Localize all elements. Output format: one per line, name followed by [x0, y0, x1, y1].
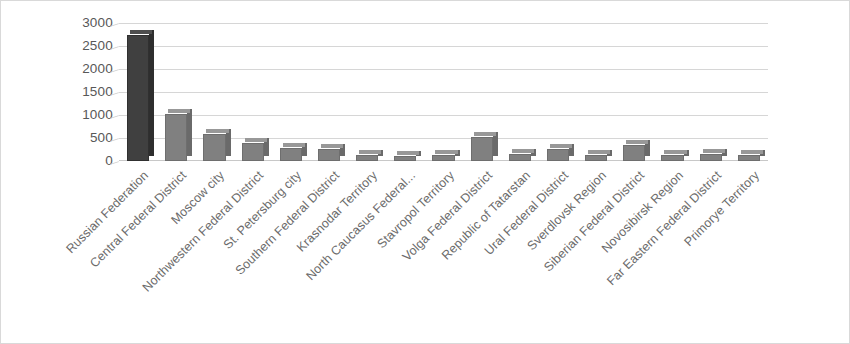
- bar-3d-top: [397, 151, 419, 155]
- bar-3d-top: [474, 132, 496, 136]
- bar[interactable]: [738, 155, 760, 161]
- bar-slot: [432, 23, 454, 161]
- bar-3d-top: [130, 30, 152, 34]
- y-axis: 300025002000150010005000: [1, 1, 113, 344]
- bar-3d-side: [187, 109, 192, 156]
- x-axis-tick-label: Primorye Territory: [470, 169, 762, 344]
- bar-3d-top: [588, 150, 610, 154]
- bar[interactable]: [165, 114, 187, 161]
- bar[interactable]: [623, 145, 645, 161]
- bar[interactable]: [356, 155, 378, 161]
- bar-slot: [623, 23, 645, 161]
- bar-3d-top: [359, 150, 381, 154]
- bar[interactable]: [318, 149, 340, 161]
- bar-slot: [471, 23, 493, 161]
- bar[interactable]: [547, 149, 569, 161]
- bar[interactable]: [509, 154, 531, 161]
- y-axis-tick-label: 1500: [1, 85, 113, 99]
- x-axis-tick-label: North Caucasus Federal...: [126, 169, 418, 344]
- bars-layer: [119, 23, 768, 161]
- y-axis-tick-label: 1000: [1, 108, 113, 122]
- x-axis-tick-label: Ural Federal District: [279, 169, 571, 344]
- bar-3d-top: [550, 144, 572, 148]
- bar-3d-top: [321, 144, 343, 148]
- bar[interactable]: [242, 143, 264, 161]
- bar-3d-side: [149, 30, 154, 157]
- plot-area: [119, 23, 768, 161]
- bar[interactable]: [700, 154, 722, 161]
- bar[interactable]: [661, 155, 683, 161]
- bar-3d-top: [168, 109, 190, 113]
- bar-3d-top: [664, 150, 686, 154]
- x-axis-tick-label: Volga Federal District: [203, 169, 495, 344]
- bar-slot: [356, 23, 378, 161]
- bar-slot: [280, 23, 302, 161]
- bar[interactable]: [471, 137, 493, 161]
- bar-slot: [318, 23, 340, 161]
- bar-slot: [547, 23, 569, 161]
- bar-slot: [127, 23, 149, 161]
- bar-slot: [661, 23, 683, 161]
- bar-3d-top: [206, 129, 228, 133]
- y-axis-tick-label: 3000: [1, 16, 113, 30]
- x-axis-tick-label: Krasnodar Territory: [88, 169, 380, 344]
- bar-slot: [394, 23, 416, 161]
- bar-slot: [509, 23, 531, 161]
- x-axis-tick-label: Siberian Federal District: [356, 169, 648, 344]
- y-axis-tick-label: 2000: [1, 62, 113, 76]
- bar-3d-top: [245, 138, 267, 142]
- bar-slot: [203, 23, 225, 161]
- bar-3d-top: [283, 143, 305, 147]
- bar-3d-side: [226, 129, 231, 156]
- bar-3d-top: [435, 150, 457, 154]
- bar[interactable]: [280, 148, 302, 161]
- bar[interactable]: [585, 155, 607, 161]
- bar-slot: [700, 23, 722, 161]
- bar-3d-top: [626, 140, 648, 144]
- bar-slot: [738, 23, 760, 161]
- bar[interactable]: [127, 35, 149, 162]
- x-axis-tick-label: Republic of Tatarstan: [241, 169, 533, 344]
- bar-slot: [585, 23, 607, 161]
- bar-3d-top: [741, 150, 763, 154]
- x-axis-tick-label: Sverdlovsk Region: [317, 169, 609, 344]
- bar-3d-top: [512, 149, 534, 153]
- x-axis-tick-label: Stavropol Territory: [165, 169, 457, 344]
- x-axis-tick-label: Far Eastern Federal District: [432, 169, 724, 344]
- y-axis-tick-label: 2500: [1, 39, 113, 53]
- y-axis-tick-label: 500: [1, 131, 113, 145]
- bar[interactable]: [203, 134, 225, 161]
- x-axis-tick-label: Novosibirsk Region: [394, 169, 686, 344]
- y-axis-tick-label: 0: [1, 154, 113, 168]
- bar[interactable]: [394, 156, 416, 161]
- chart-container: 300025002000150010005000 Russian Federat…: [0, 0, 850, 344]
- bar-slot: [165, 23, 187, 161]
- bar[interactable]: [432, 155, 454, 161]
- bar-3d-top: [703, 149, 725, 153]
- bar-slot: [242, 23, 264, 161]
